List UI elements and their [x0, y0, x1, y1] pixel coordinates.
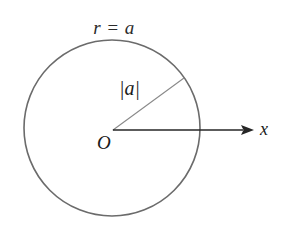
x-axis-label: x — [260, 120, 268, 138]
figure-container: r = a |a| O x — [0, 0, 285, 228]
radius-magnitude-label: |a| — [119, 78, 140, 98]
circle-shape — [24, 40, 200, 216]
circle-equation-label: r = a — [0, 18, 228, 37]
origin-label: O — [97, 133, 111, 152]
